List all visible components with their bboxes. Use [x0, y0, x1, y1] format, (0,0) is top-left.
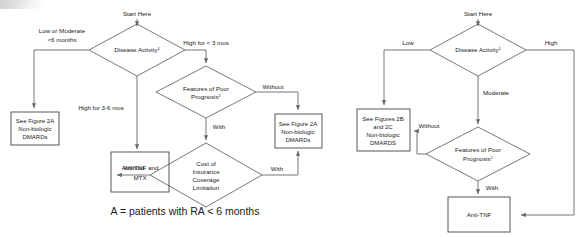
node-a-cost-line-1: Insurance: [192, 168, 220, 175]
scan-artifact: [0, 0, 42, 9]
edge-b-without: [414, 131, 426, 154]
edge-b-without-label: Without: [419, 122, 440, 129]
node-a-anti-tnf-mtx-line-0: Anti-TNF and: [122, 164, 159, 171]
node-a-anti-tnf-mtx[interactable]: Anti-TNF and MTX: [111, 152, 169, 192]
node-a-see-fig-2a-right-line-1: Non-biologic: [281, 129, 314, 135]
node-a-disease-activity-line-0: Disease Activity: [114, 46, 158, 53]
node-b-see-fig-line-0: See Figures 2B: [362, 116, 403, 122]
node-b-see-fig-line-1: and 2C: [373, 124, 393, 130]
svg-text:Prognosis1: Prognosis1: [191, 93, 222, 100]
edge-a-without-prognosis: [256, 92, 298, 110]
node-b-disease-activity-line-0: Disease Activity: [455, 46, 499, 53]
edge-a-without-prognosis-label: Without: [263, 83, 284, 90]
flowchart-figure: Start Here Disease Activity1 Low or Mode…: [0, 0, 586, 237]
node-b-see-fig-line-3: DMARDS: [370, 140, 396, 146]
node-a-disease-activity[interactable]: Disease Activity1: [89, 24, 185, 76]
edge-a-low-moderate-label-0: Low or Moderate: [39, 27, 86, 34]
svg-text:Prognosis1: Prognosis1: [463, 155, 494, 162]
node-a-see-fig-2a-left[interactable]: See Figure 2A Non-biologic DMARDs: [11, 112, 59, 145]
edge-a-with-prognosis-label: With: [213, 123, 226, 130]
node-b-poor-prognosis[interactable]: Features of Poor Prognosis1: [426, 127, 530, 181]
svg-text:Features of Poor: Features of Poor: [455, 146, 501, 153]
panel-b: Start Here Disease Activity1 Low High Mo…: [357, 10, 574, 232]
node-a-cost-line-0: Cost of: [196, 160, 216, 167]
edge-b-moderate-label: Moderate: [483, 89, 510, 96]
node-a-see-fig-2a-right-line-0: See Figure 2A: [279, 121, 317, 127]
flowchart-canvas: Start Here Disease Activity1 Low or Mode…: [0, 0, 586, 237]
edge-a-high-lt3: [185, 50, 206, 63]
node-b-poor-prognosis-line-1: Prognosis: [463, 155, 491, 162]
figure-caption: A = patients with RA < 6 months: [111, 205, 260, 217]
node-b-anti-tnf[interactable]: Anti-TNF: [448, 197, 510, 232]
edge-b-high-label: High: [545, 39, 558, 46]
node-b-poor-prognosis-line-0: Features of Poor: [455, 146, 501, 153]
node-a-see-fig-2a-left-line-2: DMARDs: [23, 134, 48, 140]
node-a-see-fig-2a-left-line-1: Non-biologic: [18, 126, 51, 132]
node-b-disease-activity-sup: 1: [498, 46, 501, 51]
node-a-cost-limitation[interactable]: Cost of Insurance Coverage Limitation: [150, 143, 262, 207]
node-a-disease-activity-sup: 1: [157, 46, 160, 51]
node-b-poor-prognosis-sup: 1: [491, 155, 494, 160]
node-b-anti-tnf-line-0: Anti-TNF: [467, 211, 492, 218]
edge-a-with-cost-label: With: [271, 165, 284, 172]
edge-a-low-moderate-label-1: <6 months: [47, 36, 76, 43]
svg-text:Features of Poor: Features of Poor: [183, 85, 229, 92]
edge-b-with-label: With: [486, 184, 499, 191]
edge-a-low-moderate: [34, 50, 89, 108]
node-b-see-fig-2b-2c[interactable]: See Figures 2B and 2C Non-biologic DMARD…: [357, 109, 410, 151]
node-a-poor-prognosis-sup: 1: [219, 93, 222, 98]
panel-b-start-label: Start Here: [464, 10, 493, 17]
node-a-poor-prognosis-line-0: Features of Poor: [183, 85, 229, 92]
node-a-see-fig-2a-left-line-0: See Figure 2A: [16, 118, 54, 124]
node-a-poor-prognosis[interactable]: Features of Poor Prognosis1: [156, 66, 256, 118]
node-a-cost-line-2: Coverage: [193, 176, 220, 183]
node-a-anti-tnf-mtx-line-1: MTX: [133, 174, 146, 181]
node-b-see-fig-line-2: Non-biologic: [366, 132, 399, 138]
edge-a-high-lt3-label: High for < 3 mos: [183, 39, 229, 46]
svg-text:Disease Activity1: Disease Activity1: [455, 46, 501, 53]
node-b-disease-activity[interactable]: Disease Activity1: [430, 24, 526, 76]
edge-b-low-label: Low: [402, 39, 414, 46]
node-a-see-fig-2a-right-line-2: DMARDs: [286, 137, 311, 143]
panel-a: Start Here Disease Activity1 Low or Mode…: [11, 10, 322, 217]
node-a-poor-prognosis-line-1: Prognosis: [191, 93, 219, 100]
svg-text:Disease Activity1: Disease Activity1: [114, 46, 160, 53]
panel-a-start-label: Start Here: [123, 10, 152, 17]
edge-a-high-3to6-label: High for 3-6 mos: [78, 104, 124, 111]
node-a-see-fig-2a-right[interactable]: See Figure 2A Non-biologic DMARDs: [275, 114, 322, 148]
edge-b-low: [384, 50, 430, 105]
node-a-cost-line-3: Limitation: [193, 184, 220, 191]
edge-b-high: [521, 50, 574, 215]
